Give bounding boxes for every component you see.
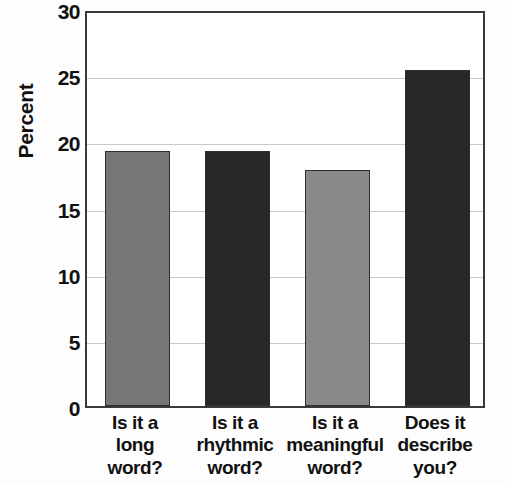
- bars-group: [87, 13, 483, 406]
- x-axis-tick-label-line: word?: [277, 457, 393, 479]
- x-axis-tick-label-line: Is it a: [177, 412, 293, 434]
- y-axis-tick-label: 5: [40, 332, 80, 353]
- x-axis-tick-label-line: describe: [377, 434, 493, 456]
- y-axis-tick-label: 0: [40, 398, 80, 419]
- bar: [405, 70, 470, 406]
- x-axis-tick-label-line: word?: [77, 457, 193, 479]
- x-axis-tick-label-line: long: [77, 434, 193, 456]
- x-axis-tick-label-line: Is it a: [77, 412, 193, 434]
- y-axis-tick-label: 25: [40, 67, 80, 88]
- y-axis-tick-label: 30: [40, 1, 80, 22]
- y-axis-tick-label: 10: [40, 266, 80, 287]
- x-axis-tick-label-line: you?: [377, 457, 493, 479]
- x-axis-tick-label: Is it arhythmicword?: [177, 412, 293, 479]
- bar: [305, 170, 370, 406]
- x-axis-tick-label-line: word?: [177, 457, 293, 479]
- x-axis-tick-label-line: meaningful: [277, 434, 393, 456]
- x-axis-tick-label: Is it ameaningfulword?: [277, 412, 393, 479]
- x-axis-tick-label-line: rhythmic: [177, 434, 293, 456]
- x-axis-tick-label-line: Does it: [377, 412, 493, 434]
- plot-area: [85, 11, 485, 408]
- y-axis-tick-label: 15: [40, 200, 80, 221]
- x-axis-tick-label-line: Is it a: [277, 412, 393, 434]
- x-axis-tick-labels: Is it alongword?Is it arhythmicword?Is i…: [85, 412, 485, 484]
- y-axis-tick-label: 20: [40, 133, 80, 154]
- bar: [205, 151, 270, 406]
- y-axis-tick-labels: 051015202530: [36, 0, 80, 484]
- x-axis-tick-label: Is it alongword?: [77, 412, 193, 479]
- bar-chart: Percent 051015202530 Is it alongword?Is …: [0, 0, 506, 484]
- bar: [105, 151, 170, 406]
- x-axis-tick-label: Does itdescribeyou?: [377, 412, 493, 479]
